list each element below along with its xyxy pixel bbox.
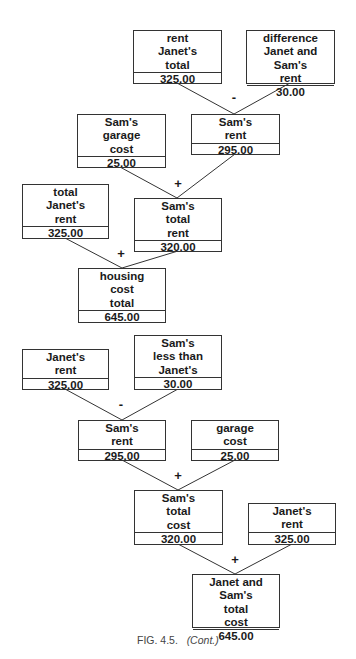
- node-label: Janet's: [249, 505, 335, 518]
- node-label: Janet's: [23, 199, 108, 212]
- node-label: Janet's: [23, 351, 108, 364]
- node-label: Janet and Sam's: [247, 45, 334, 72]
- node-label: housing: [79, 270, 165, 283]
- node-value: 325.00: [249, 532, 335, 545]
- node-label: rent: [247, 72, 334, 85]
- node-label: Sam's: [78, 116, 165, 129]
- node-janets-rent-right: Janet'srent 325.00: [248, 503, 336, 545]
- node-value: 30.00: [135, 377, 221, 390]
- node-sams-garage-cost: Sam'sgaragecost 25.00: [77, 114, 166, 168]
- node-label: rent: [134, 32, 221, 45]
- plus-operator: +: [171, 177, 185, 190]
- node-label: total: [135, 505, 222, 518]
- node-value: 325.00: [23, 378, 108, 391]
- node-garage-cost: garagecost 25.00: [191, 420, 279, 461]
- node-janet-and-sams-total-cost: Janet and Sam'stotalcost 645.00: [192, 574, 280, 628]
- plus-operator: +: [171, 469, 185, 482]
- node-value: 295.00: [192, 143, 279, 156]
- node-label: less than: [135, 350, 221, 363]
- plus-operator: +: [114, 247, 128, 260]
- node-label: rent: [192, 129, 279, 142]
- node-sams-total-cost: Sam'stotalcost 320.00: [134, 490, 223, 545]
- node-label: rent: [135, 227, 221, 240]
- node-value: 30.00: [247, 85, 334, 98]
- node-value: 325.00: [134, 72, 221, 85]
- node-janet-total-rent: rentJanet'stotal 325.00: [133, 30, 222, 84]
- node-sams-rent: Sam'srent 295.00: [191, 114, 280, 155]
- connector-lines: [0, 0, 356, 659]
- node-label: Sam's: [192, 116, 279, 129]
- node-label: total: [135, 213, 221, 226]
- node-janets-rent: Janet'srent 325.00: [22, 349, 109, 390]
- figure-caption: FIG. 4.5. (Cont.): [137, 634, 219, 646]
- node-label: total: [79, 297, 165, 310]
- node-value: 325.00: [23, 226, 108, 239]
- node-label: total: [23, 186, 108, 199]
- minus-operator: -: [114, 398, 128, 411]
- node-sams-rent: Sam'srent 295.00: [78, 420, 166, 461]
- node-label: cost: [193, 616, 279, 629]
- minus-operator: -: [227, 91, 241, 104]
- node-label: cost: [192, 435, 278, 448]
- node-label: garage: [78, 129, 165, 142]
- node-label: cost: [79, 283, 165, 296]
- figure-continuation: (Cont.): [187, 634, 219, 646]
- node-label: Sam's: [135, 200, 221, 213]
- node-label: total: [134, 59, 221, 72]
- node-value: 320.00: [135, 240, 221, 253]
- node-label: garage: [192, 422, 278, 435]
- node-sams-less-than-janets: Sam'sless thanJanet's 30.00: [134, 335, 222, 390]
- node-label: Janet's: [134, 45, 221, 58]
- node-label: difference: [247, 32, 334, 45]
- node-total-janets-rent: totalJanet'srent 325.00: [22, 184, 109, 239]
- node-value: 25.00: [78, 156, 165, 169]
- node-label: Sam's: [135, 337, 221, 350]
- node-value: 645.00: [79, 310, 165, 323]
- node-value: 295.00: [79, 449, 165, 462]
- node-value: 320.00: [135, 532, 222, 545]
- node-label: total: [193, 603, 279, 616]
- node-label: cost: [135, 519, 222, 532]
- node-label: rent: [23, 213, 108, 226]
- node-sams-total-rent: Sam'stotalrent 320.00: [134, 198, 222, 252]
- node-label: rent: [23, 364, 108, 377]
- node-label: Janet's: [135, 364, 221, 377]
- node-label: Janet and Sam's: [193, 576, 279, 603]
- node-value: 25.00: [192, 449, 278, 462]
- node-difference: differenceJanet and Sam'srent 30.00: [246, 30, 335, 84]
- node-label: rent: [79, 435, 165, 448]
- node-label: cost: [78, 143, 165, 156]
- figure-number: FIG. 4.5.: [137, 634, 178, 646]
- node-housing-cost-total: housingcosttotal 645.00: [78, 268, 166, 323]
- node-label: rent: [249, 518, 335, 531]
- node-label: Sam's: [79, 422, 165, 435]
- plus-operator: +: [228, 553, 242, 566]
- node-label: Sam's: [135, 492, 222, 505]
